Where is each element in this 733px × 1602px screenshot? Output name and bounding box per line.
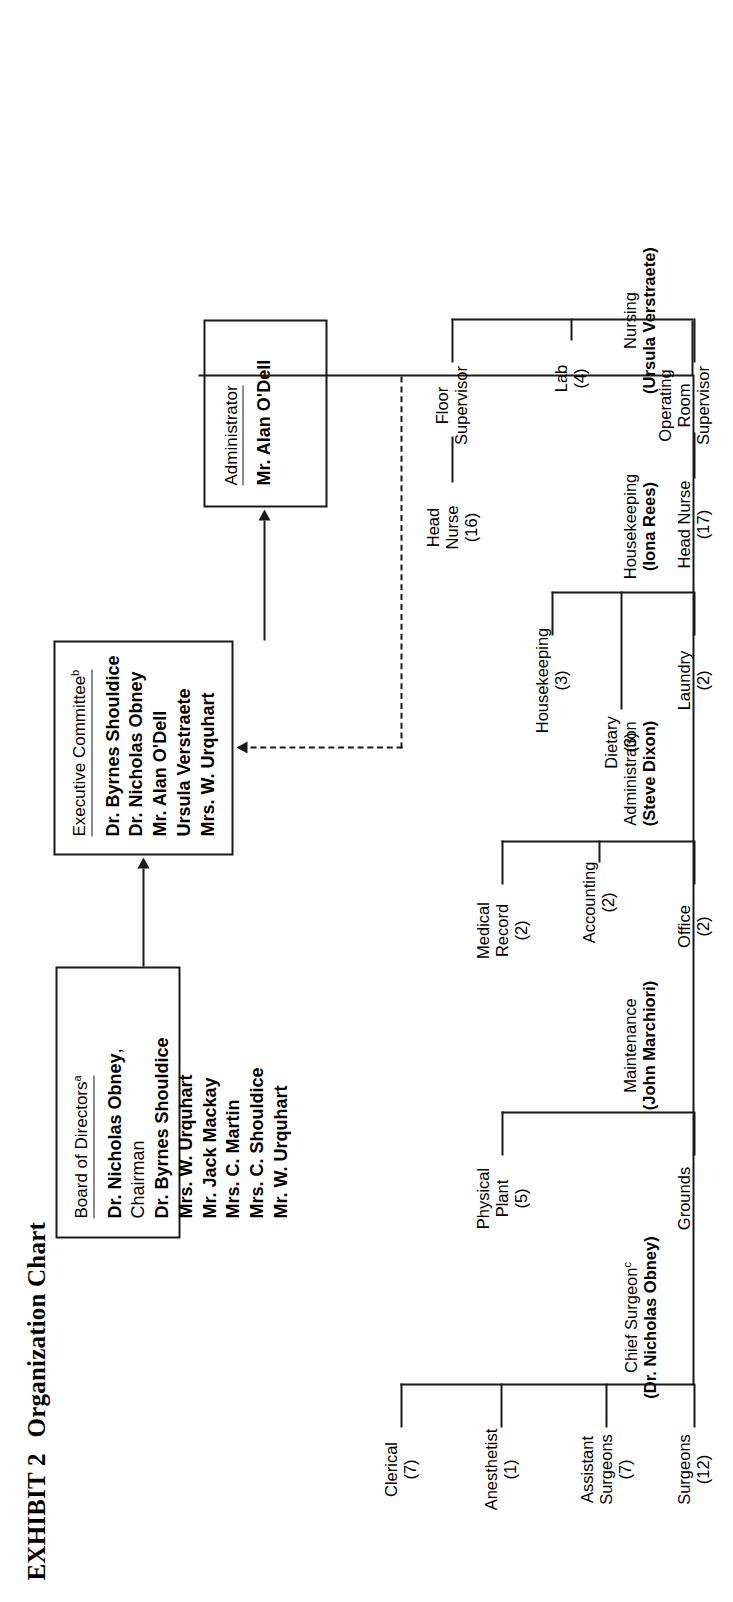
list-item: Dr. Nicholas Obney (124, 642, 148, 836)
list-item: Dr. Byrnes Shouldice (150, 968, 174, 1218)
connector-board-to-exec (142, 868, 144, 966)
unit-clerical: Clerical (7) (381, 1441, 419, 1496)
chief-surgeon-superscript: c (620, 1262, 632, 1268)
list-item: Mrs. W. Urquhart (196, 642, 220, 836)
chief-surgeon-title: Chief Surgeonc (620, 1236, 640, 1398)
board-heading: Board of Directorsa (70, 1075, 94, 1218)
unit-physical-plant: Physical Plant (5) (473, 1167, 529, 1228)
department-maintenance-label: Maintenance (John Marchiori) (620, 980, 658, 1109)
board-member-list: Dr. Nicholas Obney, Chairman Dr. Byrnes … (103, 968, 293, 1218)
list-item: Mrs. C. Shouldice (245, 968, 269, 1218)
unit-anesthetist: Anesthetist (1) (481, 1428, 519, 1510)
unit-medical-record: Medical Record (2) (473, 902, 529, 959)
maintenance-unit-connector (501, 1111, 503, 1155)
list-item: Dr. Nicholas Obney, Chairman (103, 968, 151, 1218)
unit-head-nurse-16: Head Nurse (16) (423, 505, 479, 549)
maintenance-branch-bar (501, 1111, 693, 1113)
connector-exec-to-administrator (263, 520, 265, 640)
administration-unit-connector (501, 840, 503, 884)
unit-accounting: Accounting (2) (579, 861, 617, 943)
chief-surgeon-unit-connector (500, 1383, 502, 1427)
arrowhead-dashed-to-exec (236, 741, 247, 753)
list-item: Mr. Alan O'Dell (148, 642, 172, 836)
unit-lab: Lab (4) (551, 364, 589, 392)
chief-surgeon-unit-connector (605, 1383, 607, 1427)
department-housekeeping-label: Housekeeping (Iona Rees) (620, 473, 658, 579)
arrowhead-board-to-exec (137, 857, 149, 868)
administration-branch-bar (501, 840, 693, 842)
floor-supervisor-to-head-nurse (451, 436, 453, 482)
chief-surgeon-unit-connector (400, 1383, 402, 1427)
list-item: Mrs. W. Urquhart (174, 968, 198, 1218)
administrator-name: Mr. Alan O'Dell (252, 321, 276, 485)
department-chief-surgeon-label: Chief Surgeonc (Dr. Nicholas Obney) (620, 1236, 659, 1398)
list-item: Mrs. C. Martin (221, 968, 245, 1218)
exhibit-title: Organization Chart (22, 1222, 49, 1437)
exhibit-label: EXHIBIT 2 (22, 1453, 49, 1580)
chief-surgeon-unit-connector (693, 1383, 695, 1427)
unit-grounds: Grounds (674, 1166, 693, 1229)
dashed-connector-chiefsurgeon-to-exec (400, 376, 402, 748)
chief-surgeon-branch-bar (400, 1383, 693, 1385)
arrowhead-exec-to-administrator (258, 509, 270, 520)
unit-surgeons: Surgeons (12) (674, 1434, 712, 1505)
nursing-unit-connector (693, 318, 695, 362)
executive-committee-heading: Executive Committeeb (68, 669, 92, 836)
unit-assistant-surgeons: Assistant Surgeons (7) (577, 1434, 633, 1505)
department-administration-label: Administration (Steve Dixon) (620, 720, 658, 825)
housekeeping-to-dietary (620, 591, 622, 709)
list-item: Mr. W. Urquhart (269, 968, 293, 1218)
list-item: Dr. Byrnes Shouldice (101, 642, 125, 836)
unit-floor-supervisor: Floor Supervisor (432, 366, 470, 445)
board-heading-superscript: a (70, 1075, 82, 1081)
unit-housekeeping: Housekeeping (3) (532, 627, 570, 733)
board-of-directors-box: Board of Directorsa Dr. Nicholas Obney, … (55, 966, 180, 1238)
unit-operating-room-supervisor: Operating Room Supervisor (655, 366, 711, 445)
administrator-box: Administrator Mr. Alan O'Dell (203, 319, 327, 507)
administrator-heading: Administrator (221, 385, 243, 485)
page-title: EXHIBIT 2Organization Chart (22, 1222, 50, 1581)
department-trunk (692, 374, 694, 1385)
executive-committee-member-list: Dr. Byrnes Shouldice Dr. Nicholas Obney … (101, 642, 220, 836)
nursing-unit-connector (570, 318, 572, 340)
administration-unit-connector (598, 840, 600, 862)
list-item: Mr. Jack Mackay (198, 968, 222, 1218)
dashed-connector-vertical (250, 746, 402, 748)
rotated-chart-frame: EXHIBIT 2Organization Chart Board of Dir… (0, 0, 733, 1602)
exhibit-page: EXHIBIT 2Organization Chart Board of Dir… (0, 0, 733, 1602)
executive-committee-box: Executive Committeeb Dr. Byrnes Shouldic… (53, 640, 233, 855)
nursing-unit-connector (451, 318, 453, 362)
list-item: Ursula Verstraete (172, 642, 196, 836)
org-chart-canvas: EXHIBIT 2Organization Chart Board of Dir… (0, 0, 733, 1602)
executive-committee-heading-superscript: b (68, 669, 80, 675)
